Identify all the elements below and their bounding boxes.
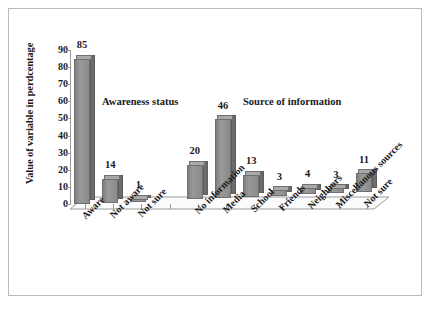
y-axis-title: Value of variable in perdcentage [24, 29, 35, 199]
y-axis-tick-80: 80 [44, 62, 68, 72]
y-tick-mark-20 [66, 170, 71, 171]
bar-value-label: 46 [205, 101, 241, 112]
bar-top-face [245, 171, 261, 176]
y-axis-tick-50: 50 [44, 113, 68, 123]
y-tick-mark-0 [66, 204, 71, 205]
bar-side-face [90, 55, 95, 200]
bar-side-face [203, 161, 208, 195]
bar-aware[interactable]: 85 [74, 50, 90, 204]
y-axis-tick-20: 20 [44, 165, 68, 175]
bar-top-face [104, 175, 120, 180]
group-title-source-of-information: Source of information [243, 96, 341, 107]
bar-neighbors[interactable]: 4 [300, 50, 316, 204]
bar-friends[interactable]: 3 [271, 50, 287, 204]
y-axis-tick-60: 60 [44, 96, 68, 106]
y-tick-mark-30 [66, 153, 71, 154]
y-tick-mark-70 [66, 84, 71, 85]
y-tick-mark-10 [66, 187, 71, 188]
bar-front-face [74, 59, 90, 204]
bar-top-face [189, 161, 205, 166]
y-tick-mark-60 [66, 101, 71, 102]
bar-no-information[interactable]: 20 [187, 50, 203, 204]
y-tick-mark-40 [66, 136, 71, 137]
bar-top-face [273, 186, 289, 191]
bar-school[interactable]: 13 [243, 50, 259, 204]
y-tick-mark-90 [66, 50, 71, 51]
y-axis-tick-labels: 9080706050403020100 [44, 44, 68, 210]
bar-value-label: 20 [177, 146, 213, 157]
x-tick-mark-3 [170, 204, 171, 209]
chart-figure: Value of variable in perdcentage 9080706… [0, 0, 431, 314]
bar-not-aware[interactable]: 14 [102, 50, 118, 204]
bar-top-face [76, 55, 92, 60]
y-axis-tick-70: 70 [44, 79, 68, 89]
y-axis-tick-30: 30 [44, 148, 68, 158]
bar-top-face [217, 115, 233, 120]
group-title-awareness-status: Awareness status [102, 96, 178, 107]
y-axis-tick-10: 10 [44, 182, 68, 192]
bar-front-face [187, 165, 203, 199]
y-axis-tick-40: 40 [44, 131, 68, 141]
bar-value-label: 85 [64, 40, 100, 51]
y-tick-mark-50 [66, 118, 71, 119]
y-axis-tick-0: 0 [44, 199, 68, 209]
bar-value-label: 14 [92, 160, 128, 171]
y-tick-mark-80 [66, 67, 71, 68]
